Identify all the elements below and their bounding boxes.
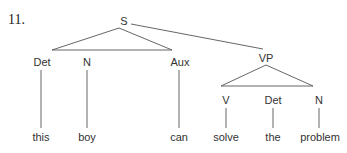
node-v: V bbox=[222, 94, 229, 106]
leaf-the: the bbox=[265, 131, 280, 143]
leaf-boy: boy bbox=[78, 131, 96, 143]
leaf-problem: problem bbox=[300, 131, 340, 143]
node-vp: VP bbox=[259, 52, 274, 64]
node-n: N bbox=[83, 56, 91, 68]
syntax-tree-diagram: 11. S Det N Aux VP V Det N this boy can … bbox=[0, 0, 347, 153]
leaf-can: can bbox=[170, 131, 188, 143]
node-aux: Aux bbox=[171, 56, 190, 68]
leaf-solve: solve bbox=[213, 131, 239, 143]
node-det-vp: Det bbox=[264, 94, 281, 106]
node-det: Det bbox=[33, 56, 50, 68]
leaf-this: this bbox=[32, 131, 49, 143]
node-n-vp: N bbox=[315, 94, 323, 106]
example-number: 11. bbox=[8, 12, 25, 28]
node-s: S bbox=[120, 15, 127, 27]
